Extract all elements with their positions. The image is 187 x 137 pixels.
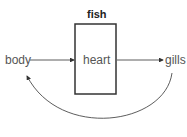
diagram-title: fish [87, 8, 107, 20]
gills-to-body-arrow [27, 73, 172, 118]
node-gills: gills [165, 53, 186, 67]
node-heart: heart [83, 53, 110, 67]
node-body: body [5, 53, 31, 67]
diagram-canvas [0, 0, 187, 137]
